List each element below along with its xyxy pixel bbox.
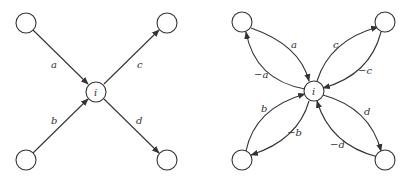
edge-a-in [33, 30, 88, 84]
edge-label-c: c [333, 39, 339, 50]
edge-label-d: d [364, 106, 370, 117]
node-bottom-right [157, 150, 177, 170]
center-label: i [312, 86, 315, 97]
edge-label-c: c [137, 59, 143, 70]
edge-b-in [246, 94, 305, 151]
edge-label-neg-d: −d [330, 139, 345, 150]
flow-diagrams: i a b c d i a −a b −b c −c d −d [0, 0, 405, 180]
node-bottom-left [16, 150, 36, 170]
edge-label-d: d [136, 115, 142, 126]
center-label: i [94, 87, 97, 98]
right-diagram: i a −a b −b c −c d −d [232, 12, 395, 170]
edge-c-out [104, 30, 159, 84]
node-bottom-left [232, 150, 252, 170]
node-top-left [16, 13, 36, 33]
edge-d-out [104, 99, 159, 153]
edge-label-a: a [291, 39, 297, 50]
left-diagram: i a b c d [16, 13, 177, 170]
edge-neg-c-in [323, 32, 381, 88]
edge-label-b: b [51, 115, 57, 126]
edge-b-in [33, 99, 88, 153]
edge-label-neg-b: −b [287, 127, 302, 138]
edge-label-b: b [261, 103, 267, 114]
node-top-left [232, 12, 252, 32]
node-top-right [157, 13, 177, 33]
node-top-right [375, 12, 395, 32]
edge-label-a: a [51, 59, 57, 70]
edge-label-neg-c: −c [358, 65, 372, 76]
node-bottom-right [375, 150, 395, 170]
edge-label-neg-a: −a [254, 69, 268, 80]
